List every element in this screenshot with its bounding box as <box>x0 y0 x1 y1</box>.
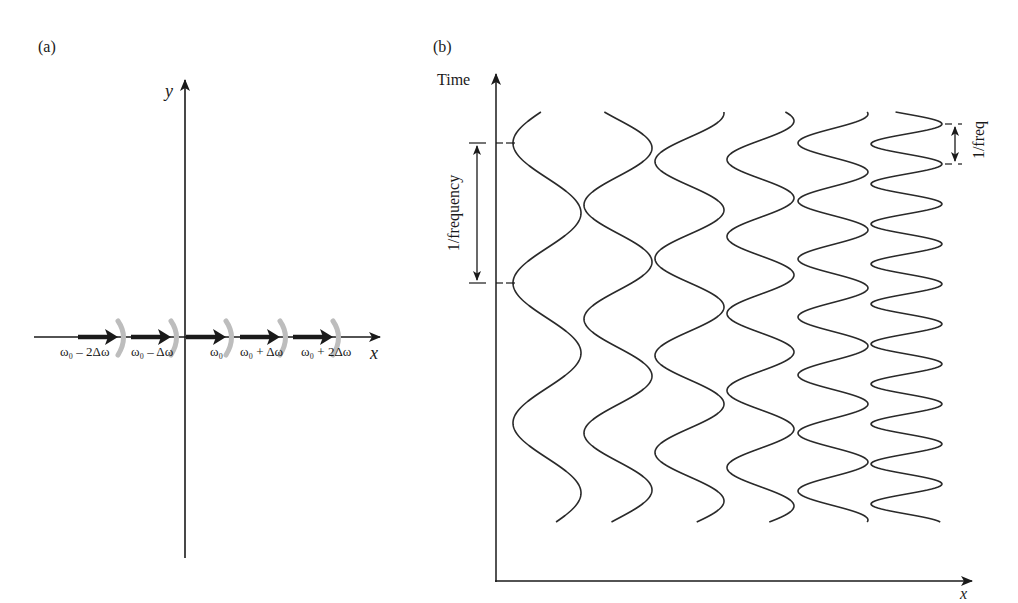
waveform-6 <box>871 112 942 522</box>
wavefront-arc <box>226 321 232 355</box>
frequency-label: ω₀ + 2Δω <box>301 344 352 359</box>
period-label-short: 1/freq <box>970 121 988 159</box>
period-label-long: 1/frequency <box>445 175 463 251</box>
period-indicator-long: 1/frequency <box>445 143 515 283</box>
waveform-2 <box>584 112 652 522</box>
panel-a: (a) y x ω₀ – 2Δω ω₀ – Δω ω₀ ω₀ + Δω ω₀ +… <box>34 38 380 558</box>
waveform-5 <box>798 112 868 522</box>
panel-b-label: (b) <box>433 38 452 56</box>
panel-a-label: (a) <box>38 38 56 56</box>
frequency-labels: ω₀ – 2Δω ω₀ – Δω ω₀ ω₀ + Δω ω₀ + 2Δω <box>60 344 352 359</box>
frequency-arrows <box>78 321 339 355</box>
time-axis-label: Time <box>437 71 470 88</box>
x-axis-label: x <box>369 343 378 363</box>
waveform-1 <box>513 112 581 522</box>
frequency-label: ω₀ + Δω <box>240 344 284 359</box>
y-axis-label: y <box>163 81 173 101</box>
frequency-label: ω₀ <box>210 344 223 359</box>
frequency-label: ω₀ – Δω <box>131 344 174 359</box>
wavefront-arc <box>118 321 124 355</box>
frequency-label: ω₀ – 2Δω <box>60 344 110 359</box>
figure-canvas: (a) y x ω₀ – 2Δω ω₀ – Δω ω₀ ω₀ + Δω ω₀ +… <box>0 0 1018 603</box>
period-indicator-short: 1/freq <box>945 121 988 164</box>
panel-b: (b) Time x 1/frequency 1/freq <box>433 38 988 602</box>
waveforms <box>513 112 942 522</box>
x-axis-b-label: x <box>959 585 967 602</box>
waveform-3 <box>655 112 724 522</box>
waveform-4 <box>727 112 794 522</box>
